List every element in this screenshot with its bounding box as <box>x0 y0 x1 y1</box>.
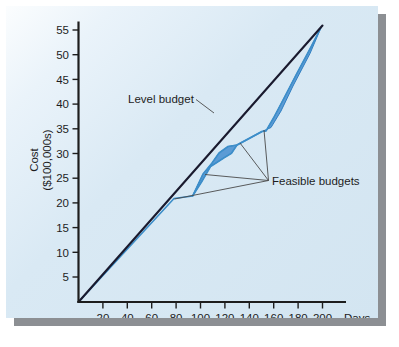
x-tick-label: 200 <box>313 312 332 324</box>
chart-figure: 55 50 45 40 35 30 25 20 15 10 5 20 40 60… <box>0 0 399 347</box>
x-tick-label: 140 <box>240 312 259 324</box>
y-tick-label: 25 <box>56 172 69 184</box>
x-axis-title: Days <box>344 312 370 324</box>
x-axis-tick-labels: 20 40 60 80 100 120 140 160 180 200 <box>97 312 333 324</box>
x-tick-label: 60 <box>145 312 158 324</box>
y-tick-label: 10 <box>56 247 69 259</box>
x-tick-label: 100 <box>191 312 210 324</box>
y-tick-label: 55 <box>56 24 69 36</box>
y-tick-label: 30 <box>56 148 69 160</box>
x-tick-label: 20 <box>97 312 110 324</box>
x-tick-label: 160 <box>264 312 283 324</box>
x-tick-label: 80 <box>170 312 183 324</box>
y-axis-title: Cost ($100,000s) <box>28 129 53 191</box>
y-tick-label: 5 <box>63 271 69 283</box>
feasible-envelope-upper-curve <box>193 132 262 197</box>
y-axis-title-line1: Cost <box>28 147 40 171</box>
x-tick-label: 180 <box>289 312 308 324</box>
y-tick-label: 20 <box>56 197 69 209</box>
y-tick-label: 15 <box>56 222 69 234</box>
level-budget-leader-line <box>196 100 214 114</box>
y-tick-label: 40 <box>56 98 69 110</box>
feasible-budgets-annotation-label: Feasible budgets <box>272 175 360 187</box>
chart-plot-area: 55 50 45 40 35 30 25 20 15 10 5 20 40 60… <box>0 0 399 347</box>
y-tick-label: 50 <box>56 49 69 61</box>
x-tick-label: 40 <box>121 312 134 324</box>
y-axis-tick-labels: 55 50 45 40 35 30 25 20 15 10 5 <box>56 24 69 283</box>
y-tick-label: 45 <box>56 74 69 86</box>
y-axis-title-line2: ($100,000s) <box>41 129 53 191</box>
y-tick-label: 35 <box>56 123 69 135</box>
x-tick-label: 120 <box>215 312 234 324</box>
level-budget-line <box>79 26 323 303</box>
level-budget-annotation-label: Level budget <box>128 93 195 105</box>
